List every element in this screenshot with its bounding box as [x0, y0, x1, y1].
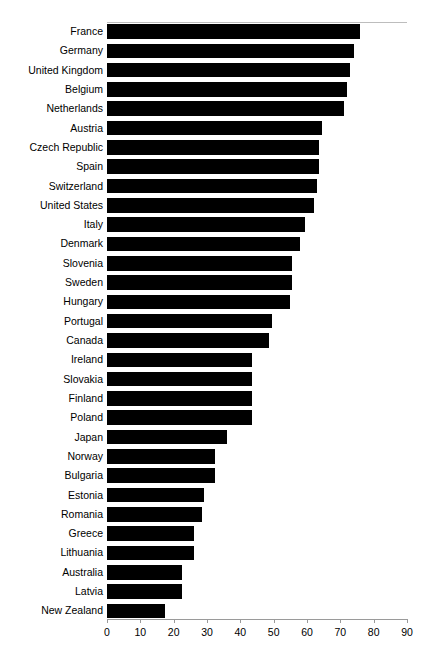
bar-row: Portugal — [107, 312, 407, 331]
bar-row: Netherlands — [107, 99, 407, 118]
bar — [107, 82, 347, 97]
bar-row: Canada — [107, 331, 407, 350]
bar-row: United States — [107, 196, 407, 215]
category-label: Spain — [76, 157, 103, 176]
x-axis-ticks: 0102030405060708090 — [107, 619, 407, 647]
x-tick-mark — [240, 619, 241, 623]
bar-row: Lithuania — [107, 543, 407, 562]
x-tick-mark — [374, 619, 375, 623]
bar — [107, 101, 344, 116]
x-tick-label: 40 — [234, 626, 246, 639]
bar-row: Poland — [107, 408, 407, 427]
bar-row: New Zealand — [107, 601, 407, 620]
x-tick-label: 90 — [401, 626, 413, 639]
bar — [107, 449, 215, 464]
x-tick-mark — [107, 619, 108, 623]
bar-row: Norway — [107, 447, 407, 466]
category-label: Ireland — [71, 350, 103, 369]
category-label: Australia — [62, 563, 103, 582]
bar — [107, 275, 292, 290]
bar-row: Ireland — [107, 350, 407, 369]
category-label: Romania — [61, 505, 103, 524]
x-tick-label: 50 — [268, 626, 280, 639]
bar-row: Latvia — [107, 582, 407, 601]
x-tick-mark — [274, 619, 275, 623]
category-label: New Zealand — [41, 601, 103, 620]
category-label: Portugal — [64, 312, 103, 331]
bar-row: Australia — [107, 563, 407, 582]
category-label: Norway — [67, 447, 103, 466]
bar — [107, 314, 272, 329]
category-label: Estonia — [68, 486, 103, 505]
category-label: Greece — [69, 524, 103, 543]
bar-row: Denmark — [107, 234, 407, 253]
category-label: Belgium — [65, 80, 103, 99]
bar — [107, 217, 305, 232]
x-tick-mark — [407, 619, 408, 623]
bar — [107, 546, 194, 561]
bar — [107, 468, 215, 483]
bar-row: Belgium — [107, 80, 407, 99]
bar — [107, 140, 319, 155]
x-tick-mark — [207, 619, 208, 623]
bar-row: United Kingdom — [107, 61, 407, 80]
bar — [107, 565, 182, 580]
category-label: Austria — [70, 119, 103, 138]
bar — [107, 24, 360, 39]
bar-row: Hungary — [107, 292, 407, 311]
x-tick-label: 70 — [334, 626, 346, 639]
category-label: Slovakia — [63, 370, 103, 389]
bar-chart: FranceGermanyUnited KingdomBelgiumNether… — [0, 0, 426, 652]
bar-row: Austria — [107, 119, 407, 138]
x-tick-label: 10 — [134, 626, 146, 639]
x-tick-label: 80 — [368, 626, 380, 639]
bar — [107, 353, 252, 368]
plot-area: FranceGermanyUnited KingdomBelgiumNether… — [107, 22, 407, 619]
bar — [107, 488, 204, 503]
bar-row: Japan — [107, 428, 407, 447]
category-label: Japan — [74, 428, 103, 447]
category-label: Czech Republic — [29, 138, 103, 157]
bar — [107, 179, 317, 194]
bar — [107, 159, 319, 174]
category-label: Germany — [60, 41, 103, 60]
x-tick-label: 30 — [201, 626, 213, 639]
bar-row: Slovakia — [107, 370, 407, 389]
bar-row: Germany — [107, 41, 407, 60]
x-tick-label: 20 — [168, 626, 180, 639]
bar-row: Sweden — [107, 273, 407, 292]
x-tick-label: 60 — [301, 626, 313, 639]
bar-row: Greece — [107, 524, 407, 543]
category-label: United Kingdom — [28, 61, 103, 80]
category-label: Hungary — [63, 292, 103, 311]
x-tick-mark — [140, 619, 141, 623]
bar-row: France — [107, 22, 407, 41]
bar — [107, 430, 227, 445]
category-label: Netherlands — [46, 99, 103, 118]
bar — [107, 604, 165, 619]
bar-row: Romania — [107, 505, 407, 524]
bar — [107, 121, 322, 136]
bar — [107, 526, 194, 541]
bar — [107, 256, 292, 271]
bar — [107, 295, 290, 310]
bar — [107, 63, 350, 78]
bar — [107, 391, 252, 406]
category-label: Latvia — [75, 582, 103, 601]
bar-row: Estonia — [107, 486, 407, 505]
bar-row: Switzerland — [107, 177, 407, 196]
category-label: Sweden — [65, 273, 103, 292]
x-tick-mark — [340, 619, 341, 623]
category-label: France — [70, 22, 103, 41]
bar-rows: FranceGermanyUnited KingdomBelgiumNether… — [107, 22, 407, 621]
category-label: Poland — [70, 408, 103, 427]
bar — [107, 410, 252, 425]
category-label: Denmark — [60, 234, 103, 253]
bar-row: Finland — [107, 389, 407, 408]
category-label: Bulgaria — [64, 466, 103, 485]
x-tick-label: 0 — [104, 626, 110, 639]
category-label: Italy — [84, 215, 103, 234]
x-tick-mark — [174, 619, 175, 623]
x-tick-mark — [307, 619, 308, 623]
bar — [107, 372, 252, 387]
